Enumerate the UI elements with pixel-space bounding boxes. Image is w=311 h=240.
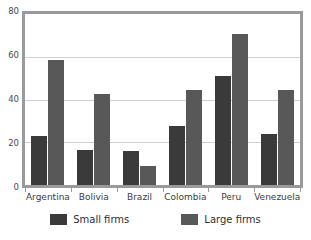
bar-venezuela-small-firms [261, 134, 277, 185]
bar-peru-small-firms [215, 76, 231, 185]
legend-item-small-firms: Small firms [50, 214, 129, 225]
y-axis-tick-0: 0 [0, 183, 19, 192]
y-axis-tick-20: 20 [0, 139, 19, 148]
bar-brazil-small-firms [123, 151, 139, 185]
y-axis-tick-60: 60 [0, 51, 19, 60]
bar-chart: 80 60 40 20 0 ArgentinaBoliviaBrazilColo… [0, 0, 311, 240]
x-tick-mark-6 [300, 188, 301, 192]
bar-argentina-large-firms [48, 60, 64, 185]
legend: Small firms Large firms [0, 214, 311, 225]
bars-layer [25, 14, 300, 185]
legend-label-large-firms: Large firms [204, 214, 261, 225]
bar-bolivia-small-firms [77, 150, 93, 185]
bar-bolivia-large-firms [94, 94, 110, 185]
bar-argentina-small-firms [31, 136, 47, 185]
x-axis-label-peru: Peru [208, 192, 254, 203]
x-axis-label-colombia: Colombia [163, 192, 209, 203]
bar-brazil-large-firms [140, 166, 156, 185]
x-axis-label-argentina: Argentina [25, 192, 71, 203]
legend-item-large-firms: Large firms [181, 214, 261, 225]
bar-colombia-small-firms [169, 126, 185, 185]
legend-swatch-icon-small-firms [50, 214, 67, 225]
y-axis-tick-80: 80 [0, 7, 19, 16]
bar-venezuela-large-firms [278, 90, 294, 185]
x-axis-label-bolivia: Bolivia [71, 192, 117, 203]
bar-colombia-large-firms [186, 90, 202, 185]
x-axis-label-brazil: Brazil [117, 192, 163, 203]
bar-peru-large-firms [232, 34, 248, 185]
legend-label-small-firms: Small firms [73, 214, 129, 225]
x-axis-label-venezuela: Venezuela [254, 192, 300, 203]
plot-area [22, 11, 303, 188]
plot-inner [25, 14, 300, 185]
legend-swatch-icon-large-firms [181, 214, 198, 225]
y-axis-tick-40: 40 [0, 95, 19, 104]
